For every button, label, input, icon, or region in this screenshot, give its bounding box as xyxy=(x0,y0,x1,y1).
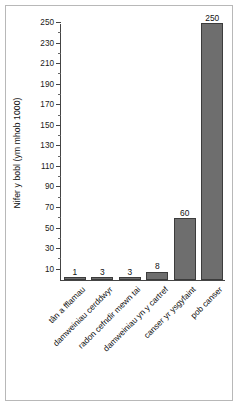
y-axis-tick xyxy=(56,84,61,85)
y-axis-tick xyxy=(56,43,61,44)
y-axis-tick-label: 210 xyxy=(40,60,54,68)
y-axis-tick xyxy=(56,269,61,270)
y-axis-tick-label: 90 xyxy=(45,183,54,191)
y-axis-tick xyxy=(56,104,61,105)
y-axis-tick xyxy=(56,207,61,208)
bar-value-label: 3 xyxy=(127,268,132,276)
y-axis-tick-label: 10 xyxy=(45,266,54,274)
y-axis-tick xyxy=(56,228,61,229)
y-axis-minor-tick xyxy=(58,197,61,198)
bar: 250 xyxy=(201,23,223,280)
bar: 3 xyxy=(119,277,141,280)
y-axis-minor-tick xyxy=(58,115,61,116)
y-axis-tick-label: 150 xyxy=(40,122,54,130)
bar: 1 xyxy=(64,277,86,280)
y-axis-minor-tick xyxy=(58,258,61,259)
bar-value-label: 250 xyxy=(205,14,219,22)
y-axis-title: Nifer y bobl (ym mhob 1000) xyxy=(10,24,24,281)
y-axis-minor-tick xyxy=(58,217,61,218)
y-axis-tick-label: 130 xyxy=(40,142,54,150)
y-axis-minor-tick xyxy=(58,176,61,177)
y-axis-tick-label: 250 xyxy=(40,19,54,27)
y-axis-minor-tick xyxy=(58,238,61,239)
y-axis-tick xyxy=(56,145,61,146)
y-axis-tick xyxy=(56,186,61,187)
figure: Nifer y bobl (ym mhob 1000) 103050709011… xyxy=(0,0,239,407)
y-axis-minor-tick xyxy=(58,73,61,74)
y-axis-tick-label: 110 xyxy=(41,163,54,171)
y-axis-tick-label: 30 xyxy=(45,245,54,253)
y-axis-tick-label: 70 xyxy=(45,204,54,212)
y-axis-minor-tick xyxy=(58,32,61,33)
y-axis-tick xyxy=(56,22,61,23)
y-axis-minor-tick xyxy=(58,53,61,54)
y-axis-minor-tick xyxy=(58,156,61,157)
bar-value-label: 60 xyxy=(180,209,189,217)
bar-value-label: 3 xyxy=(100,268,105,276)
y-axis-minor-tick xyxy=(58,94,61,95)
y-axis-tick xyxy=(56,248,61,249)
bar: 3 xyxy=(91,277,113,280)
y-axis-title-label: Nifer y bobl (ym mhob 1000) xyxy=(12,97,22,208)
y-axis-tick xyxy=(56,125,61,126)
y-axis-tick-label: 230 xyxy=(40,39,54,47)
y-axis-tick xyxy=(56,166,61,167)
bar: 60 xyxy=(174,218,196,280)
plot-area: 1030507090110130150170190210230250 13386… xyxy=(60,24,225,281)
y-axis-tick-label: 190 xyxy=(40,81,54,89)
bar-value-label: 1 xyxy=(72,268,77,276)
y-axis-tick-label: 50 xyxy=(45,225,54,233)
y-axis-tick-label: 170 xyxy=(40,101,54,109)
y-axis-tick xyxy=(56,63,61,64)
bar-value-label: 8 xyxy=(155,262,160,270)
y-axis-minor-tick xyxy=(58,135,61,136)
bar: 8 xyxy=(146,272,168,280)
